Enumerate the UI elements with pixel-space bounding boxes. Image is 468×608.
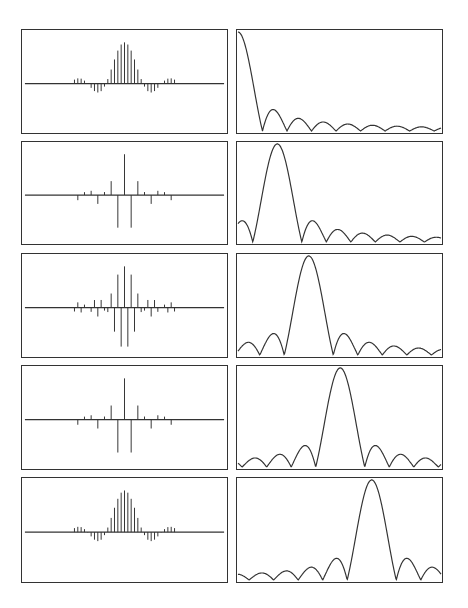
impulse-response-panel-5 [21,477,228,583]
frequency-response-panel-3 [236,253,443,358]
impulse-response-panel-2 [21,141,228,245]
impulse-response-panel-1 [21,29,228,134]
impulse-response-panel-3 [21,253,228,358]
frequency-response-panel-1 [236,29,443,134]
impulse-response-panel-4 [21,365,228,470]
frequency-response-panel-2 [236,141,443,245]
frequency-response-panel-4 [236,365,443,470]
frequency-response-panel-5 [236,477,443,583]
